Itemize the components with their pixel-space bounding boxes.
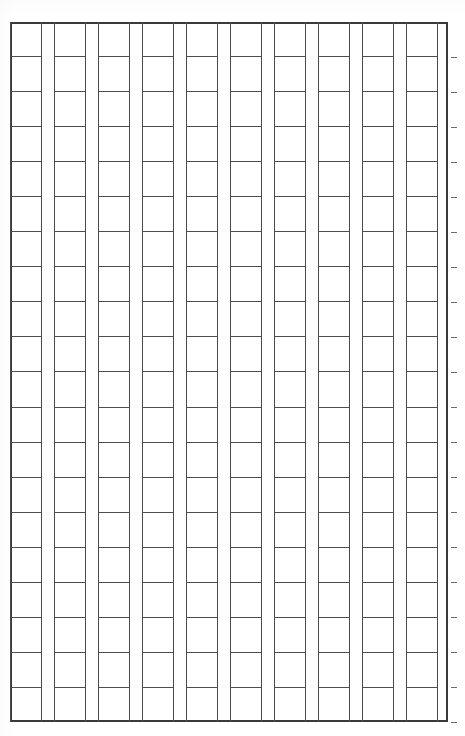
grid-cell[interactable] (187, 232, 217, 267)
grid-cell[interactable] (99, 408, 129, 443)
grid-cell[interactable] (319, 513, 349, 548)
grid-cell[interactable] (187, 372, 217, 407)
grid-cell[interactable] (231, 22, 261, 57)
grid-cell[interactable] (231, 162, 261, 197)
grid-cell[interactable] (231, 267, 261, 302)
grid-cell[interactable] (319, 548, 349, 583)
grid-cell[interactable] (11, 92, 41, 127)
grid-cell[interactable] (319, 372, 349, 407)
grid-cell[interactable] (99, 302, 129, 337)
grid-cell[interactable] (99, 618, 129, 653)
grid-cell[interactable] (55, 372, 85, 407)
grid-cell[interactable] (99, 372, 129, 407)
grid-cell[interactable] (363, 583, 393, 618)
grid-cell[interactable] (231, 618, 261, 653)
grid-cell[interactable] (319, 162, 349, 197)
grid-cell[interactable] (55, 688, 85, 722)
grid-cell[interactable] (319, 92, 349, 127)
grid-cell[interactable] (275, 197, 305, 232)
grid-cell[interactable] (231, 478, 261, 513)
grid-cell[interactable] (55, 267, 85, 302)
grid-cell[interactable] (363, 57, 393, 92)
grid-cell[interactable] (319, 443, 349, 478)
grid-cell[interactable] (11, 337, 41, 372)
grid-cell[interactable] (275, 618, 305, 653)
grid-cell[interactable] (231, 337, 261, 372)
grid-cell[interactable] (363, 162, 393, 197)
grid-cell[interactable] (99, 92, 129, 127)
grid-cell[interactable] (11, 232, 41, 267)
grid-cell[interactable] (231, 408, 261, 443)
grid-cell[interactable] (407, 197, 437, 232)
grid-cell[interactable] (319, 653, 349, 688)
grid-cell[interactable] (275, 583, 305, 618)
grid-cell[interactable] (187, 443, 217, 478)
grid-cell[interactable] (11, 162, 41, 197)
grid-cell[interactable] (275, 478, 305, 513)
grid-cell[interactable] (55, 22, 85, 57)
grid-cell[interactable] (99, 653, 129, 688)
grid-cell[interactable] (275, 127, 305, 162)
grid-cell[interactable] (187, 513, 217, 548)
grid-cell[interactable] (231, 92, 261, 127)
grid-cell[interactable] (407, 443, 437, 478)
grid-cell[interactable] (407, 478, 437, 513)
grid-cell[interactable] (187, 548, 217, 583)
grid-cell[interactable] (363, 267, 393, 302)
grid-cell[interactable] (99, 478, 129, 513)
grid-cell[interactable] (143, 162, 173, 197)
grid-cell[interactable] (11, 548, 41, 583)
grid-cell[interactable] (55, 653, 85, 688)
grid-cell[interactable] (143, 688, 173, 722)
grid-cell[interactable] (363, 478, 393, 513)
grid-cell[interactable] (99, 127, 129, 162)
grid-cell[interactable] (143, 548, 173, 583)
grid-cell[interactable] (407, 548, 437, 583)
grid-cell[interactable] (143, 337, 173, 372)
grid-cell[interactable] (11, 653, 41, 688)
grid-cell[interactable] (407, 653, 437, 688)
grid-cell[interactable] (55, 478, 85, 513)
grid-cell[interactable] (143, 583, 173, 618)
grid-cell[interactable] (319, 232, 349, 267)
grid-cell[interactable] (231, 372, 261, 407)
grid-cell[interactable] (363, 127, 393, 162)
grid-cell[interactable] (143, 267, 173, 302)
grid-cell[interactable] (407, 162, 437, 197)
grid-cell[interactable] (143, 232, 173, 267)
grid-cell[interactable] (187, 653, 217, 688)
grid-cell[interactable] (187, 57, 217, 92)
grid-cell[interactable] (407, 337, 437, 372)
grid-cell[interactable] (275, 513, 305, 548)
grid-cell[interactable] (275, 443, 305, 478)
grid-cell[interactable] (55, 127, 85, 162)
grid-cell[interactable] (55, 618, 85, 653)
grid-cell[interactable] (143, 618, 173, 653)
grid-cell[interactable] (407, 513, 437, 548)
grid-cell[interactable] (275, 408, 305, 443)
grid-cell[interactable] (99, 22, 129, 57)
grid-cell[interactable] (231, 302, 261, 337)
grid-cell[interactable] (363, 22, 393, 57)
grid-cell[interactable] (319, 302, 349, 337)
grid-cell[interactable] (187, 583, 217, 618)
grid-cell[interactable] (231, 548, 261, 583)
grid-cell[interactable] (363, 197, 393, 232)
grid-cell[interactable] (187, 337, 217, 372)
grid-cell[interactable] (55, 408, 85, 443)
grid-cell[interactable] (55, 548, 85, 583)
grid-cell[interactable] (363, 548, 393, 583)
grid-cell[interactable] (99, 162, 129, 197)
grid-cell[interactable] (319, 583, 349, 618)
grid-cell[interactable] (407, 22, 437, 57)
grid-cell[interactable] (55, 197, 85, 232)
grid-cell[interactable] (11, 372, 41, 407)
grid-cell[interactable] (187, 127, 217, 162)
grid-cell[interactable] (231, 688, 261, 722)
grid-cell[interactable] (55, 57, 85, 92)
grid-cell[interactable] (143, 22, 173, 57)
grid-cell[interactable] (11, 127, 41, 162)
grid-cell[interactable] (407, 267, 437, 302)
grid-cell[interactable] (11, 302, 41, 337)
grid-cell[interactable] (187, 688, 217, 722)
